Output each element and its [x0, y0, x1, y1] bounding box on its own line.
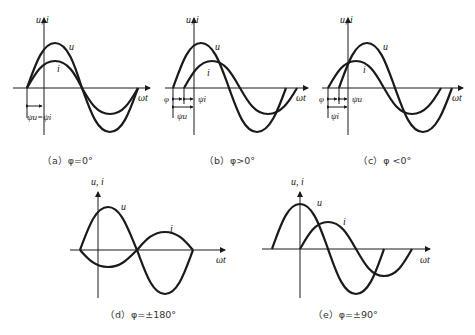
caption-b: （b）φ>0° — [204, 155, 255, 166]
psi-u-label: ψu — [177, 111, 188, 121]
label-i: i — [207, 67, 210, 78]
panel-a: u, i ωt u i ψu=ψi （a）φ=0° — [13, 14, 150, 166]
y-axis-label: u, i — [340, 14, 353, 25]
y-axis-label: u, i — [186, 14, 199, 25]
y-axis-label: u, i — [91, 176, 104, 187]
label-i: i — [343, 216, 346, 227]
y-axis-label: u, i — [291, 176, 304, 187]
label-u: u — [215, 41, 220, 52]
x-axis-label: ωt — [216, 254, 226, 265]
phi-label: φ — [319, 94, 324, 104]
panel-d: u, i ωt u i （d）φ=±180° — [70, 176, 226, 320]
psi-i-label: ψi — [198, 94, 207, 104]
label-i: i — [57, 63, 60, 74]
label-u: u — [383, 41, 388, 52]
psi-i-label: ψi — [331, 111, 340, 121]
x-axis-label: ωt — [138, 92, 148, 103]
label-u: u — [317, 197, 322, 208]
panel-b: u, i ωt u i φ ψi ψu （b）φ>0° — [164, 14, 308, 166]
x-axis-label: ωt — [296, 92, 306, 103]
caption-e: （e）φ=±90° — [313, 309, 378, 320]
caption-c: （c）φ <0° — [358, 155, 411, 166]
label-u: u — [69, 41, 74, 52]
label-i: i — [363, 64, 366, 75]
psi-u-label: ψu — [352, 94, 363, 104]
panel-c: u, i ωt u i φ ψu ψi （c）φ <0° — [319, 14, 463, 166]
caption-d: （d）φ=±180° — [105, 309, 176, 320]
phi-label: φ — [164, 94, 169, 104]
x-axis-label: ωt — [420, 254, 430, 265]
psi-equal-label: ψu=ψi — [27, 112, 52, 122]
phase-diagram-figure: u, i ωt u i ψu=ψi （a）φ=0° u, i ωt u i φ … — [0, 0, 475, 335]
label-i: i — [170, 223, 173, 234]
x-axis-label: ωt — [452, 92, 462, 103]
caption-a: （a）φ=0° — [42, 155, 93, 166]
y-axis-label: u, i — [36, 14, 49, 25]
label-u: u — [121, 201, 126, 212]
panel-e: u, i ωt u i （e）φ=±90° — [262, 176, 430, 320]
